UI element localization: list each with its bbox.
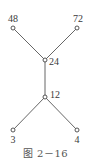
edge-48-24 bbox=[13, 28, 45, 60]
edge-12-3 bbox=[13, 97, 45, 130]
node-label-48: 48 bbox=[8, 13, 18, 24]
figure-caption: 图 2－16 bbox=[0, 145, 91, 160]
node-12 bbox=[43, 95, 47, 99]
edge-12-4 bbox=[45, 97, 77, 130]
node-label-12: 12 bbox=[50, 89, 60, 100]
node-72 bbox=[75, 26, 79, 30]
node-24 bbox=[43, 58, 47, 62]
node-label-4: 4 bbox=[75, 134, 80, 145]
node-label-3: 3 bbox=[11, 134, 16, 145]
node-3 bbox=[11, 128, 15, 132]
node-label-72: 72 bbox=[73, 13, 83, 24]
tree-diagram: 4872241234 bbox=[0, 0, 91, 164]
node-label-24: 24 bbox=[49, 56, 59, 67]
node-48 bbox=[11, 26, 15, 30]
node-4 bbox=[75, 128, 79, 132]
diagram-canvas: 4872241234 bbox=[0, 0, 91, 164]
